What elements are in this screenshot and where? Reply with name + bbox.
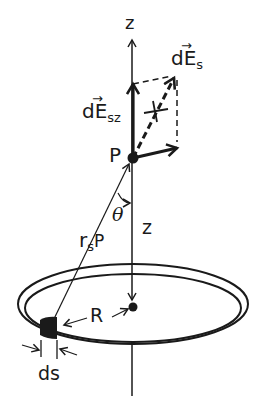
rsP-label: rsP <box>79 230 104 253</box>
dEs-perp-vector <box>133 148 177 158</box>
vector-arrow-icon: → <box>92 92 103 105</box>
ring-field-diagram <box>0 0 265 408</box>
z-axis-label: z <box>125 14 134 32</box>
theta-label: θ <box>112 205 123 224</box>
vector-arrow-icon: → <box>181 39 192 52</box>
dashed-box-top <box>133 76 172 84</box>
radius-R-label: R <box>90 306 103 325</box>
point-P-dot <box>128 153 139 164</box>
point-P-label: P <box>109 145 121 165</box>
theta-arc <box>118 193 130 203</box>
ds-arrow-left <box>22 345 39 350</box>
radius-arrow-left <box>64 318 87 325</box>
ds-arrow-right <box>60 349 77 355</box>
ring-center-dot <box>129 303 138 312</box>
distance-z-label: z <box>142 218 152 237</box>
dEs-vector <box>133 78 174 158</box>
dEsz-label: →dEsz <box>82 101 121 124</box>
radius-arrow-right <box>112 309 128 317</box>
dEs-label: →dEs <box>171 48 203 71</box>
element-ds-label: ds <box>38 364 60 383</box>
charge-element-ds <box>40 317 57 339</box>
